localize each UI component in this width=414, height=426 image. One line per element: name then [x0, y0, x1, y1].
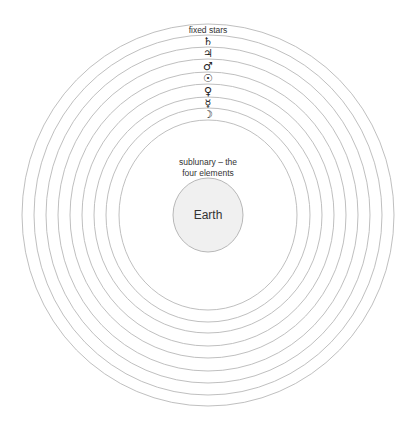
mars-symbol-icon: ♂ [203, 60, 213, 73]
fixed-stars-label: fixed stars [189, 25, 228, 35]
celestial-spheres-diagram: Earth sublunary – the four elements fixe… [0, 0, 414, 426]
sublunary-label-line1: sublunary – the [179, 157, 237, 167]
sublunary-label-line2: four elements [182, 168, 234, 178]
moon-symbol-icon: ☽ [203, 108, 213, 121]
jupiter-symbol-icon: ♃ [203, 47, 213, 60]
earth-label: Earth [194, 208, 223, 222]
sun-symbol-icon: ☉ [203, 72, 213, 85]
